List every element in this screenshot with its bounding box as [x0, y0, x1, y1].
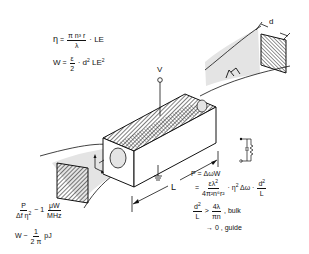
eq-w1-rhs-pre: · d [78, 58, 87, 67]
aperture-label: d [269, 17, 273, 26]
eq-w1-den: 2 [70, 64, 74, 72]
eq-p2-fraction2: d2 L [257, 180, 266, 197]
eq-w2-lhs: W [15, 232, 22, 239]
equation-guide-condition: → 0 , guide [206, 224, 242, 231]
eq-w2-num: 1 [33, 228, 39, 237]
eq-p2-num: ελ2 [208, 180, 219, 189]
eq-c1-num-sup: 2 [198, 201, 201, 207]
eq-p2-den: 4π²n⁶r² [202, 189, 225, 197]
eq-c1-f2-num: 4λ [212, 203, 221, 212]
eq-pr-fraction: P Δf η2 [16, 202, 31, 219]
eq-pr-den-pre: Δf η [16, 212, 28, 219]
eq-p2-f2-num: d2 [257, 180, 266, 189]
eq-w1-num: ε [70, 55, 75, 64]
eq-w1-fraction: ε 2 [70, 55, 75, 72]
input-polarizer [57, 163, 88, 203]
eq-eta-fraction: π n³ r λ [67, 32, 86, 49]
eq-eta-num: π n³ r [67, 32, 86, 41]
eq-w2-fraction: 1 2 π [31, 228, 42, 245]
eq-p2-fraction: ελ2 4π²n⁶r² [202, 180, 225, 197]
eq-c1-fraction2: 4λ πn [212, 203, 221, 220]
eq-eta-equals: = [60, 36, 64, 43]
eq-w2-den: 2 π [31, 237, 42, 245]
eq-p1-text: P = ΔωW [191, 170, 220, 177]
voltage-label: V [157, 65, 162, 74]
equation-eta: η = π n³ r λ · LE [53, 32, 104, 49]
eq-pr-num: P [20, 202, 27, 211]
eq-pr-den: Δf η2 [16, 211, 31, 219]
eq-eta-rhs: · LE [89, 35, 104, 44]
eq-w2-rhs: pJ [44, 232, 51, 239]
eq-w1-lhs: W [53, 58, 61, 67]
eq-pr-den-sup: 2 [28, 210, 31, 216]
eq-p2-mid-pre: · η [228, 184, 236, 191]
eq-p2-equals: = [195, 184, 199, 191]
equation-power: P = ΔωW [191, 170, 220, 177]
equation-energy-estimate: W ~ 1 2 π pJ [15, 228, 52, 245]
eq-c2-text: → 0 , guide [206, 224, 242, 231]
eq-w1-rhs-mid: LE [90, 58, 102, 67]
eq-w1-sup2: 2 [102, 57, 105, 63]
eq-w1-equals: = [63, 59, 67, 66]
eq-w2-rel: ~ [24, 232, 28, 239]
eq-c1-fraction: d2 L [193, 203, 202, 220]
eq-p2-num-sup: 2 [215, 178, 218, 184]
output-aperture [261, 34, 286, 73]
eq-pr-unit: μW MHz [47, 202, 61, 219]
eq-c1-suffix: , bulk [224, 207, 241, 214]
eq-w1-rhs: · d2 LE2 [78, 58, 105, 67]
eq-p2-f2-num-sup: 2 [262, 178, 265, 184]
equation-energy: W = ε 2 · d2 LE2 [53, 55, 105, 72]
eq-pr-unit-den: MHz [47, 211, 61, 219]
eq-c1-den: L [195, 212, 199, 220]
eq-c1-num: d2 [193, 203, 202, 212]
eq-p2-f2-den: L [260, 189, 264, 197]
equivalent-circuit-icon [240, 138, 253, 163]
eq-c1-rel: > [205, 207, 209, 214]
eq-p2-mid: · η2 Δω · [228, 184, 255, 191]
equation-power-expanded: = ελ2 4π²n⁶r² · η2 Δω · d2 L [195, 180, 267, 197]
length-label: L [171, 182, 176, 192]
eq-p2-mid-post: Δω · [238, 184, 254, 191]
eq-eta-den: λ [75, 41, 79, 49]
equation-power-ratio: P Δf η2 ~ 1 μW MHz [15, 202, 62, 219]
eq-eta-lhs: η [53, 34, 58, 44]
equation-bulk-condition: d2 L > 4λ πn , bulk [192, 203, 241, 220]
eq-pr-unit-num: μW [48, 202, 61, 211]
eq-pr-rel: ~ 1 [34, 206, 44, 213]
eq-c1-f2-den: πn [212, 212, 221, 220]
